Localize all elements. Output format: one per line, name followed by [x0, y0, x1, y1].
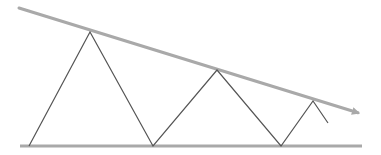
- descending-triangle-diagram: [0, 0, 381, 155]
- descending-resistance-trendline: [19, 8, 358, 113]
